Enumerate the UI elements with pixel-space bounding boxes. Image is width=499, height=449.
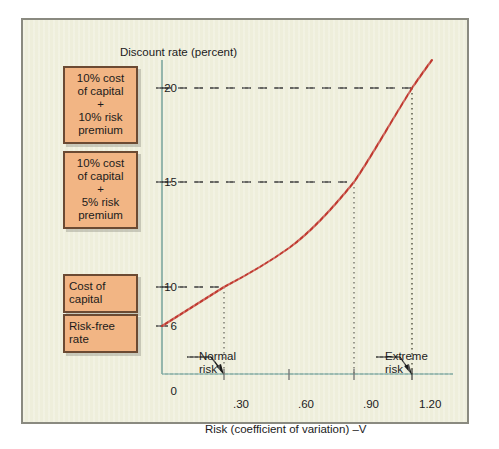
figure-root: 10% cost of capital + 10% risk premium 1… (0, 0, 499, 449)
callout-10pct-risk-premium: 10% cost of capital + 10% risk premium (63, 66, 138, 144)
callout-line: 10% risk (69, 111, 132, 124)
callout-line: premium (69, 209, 132, 222)
annotation-normal-risk: Normal risk (199, 350, 236, 375)
callout-line: 5% risk (69, 196, 132, 209)
callout-line: of capital (69, 170, 132, 183)
x-tick-label-090: .90 (363, 398, 379, 410)
callout-line: + (69, 98, 132, 111)
annotation-extreme-risk: Extreme risk (385, 350, 428, 375)
annotation-line: Normal (199, 350, 236, 363)
callout-cost-of-capital: Cost of capital (63, 274, 138, 313)
chart-panel: 10% cost of capital + 10% risk premium 1… (21, 18, 469, 424)
callout-line: + (69, 183, 132, 196)
reference-lines-horizontal (162, 88, 412, 287)
callout-line: premium (69, 124, 132, 137)
reference-lines-vertical (224, 88, 412, 374)
callout-line: Cost of (69, 280, 132, 293)
x-tick-label-120: 1.20 (419, 398, 441, 410)
risk-return-curve (162, 60, 432, 326)
callout-line: capital (69, 293, 132, 306)
callout-line: of capital (69, 85, 132, 98)
callout-5pct-risk-premium: 10% cost of capital + 5% risk premium (63, 151, 138, 229)
x-axis-title: Risk (coefficient of variation) –V (205, 423, 367, 436)
x-tick-label-030: .30 (233, 398, 249, 410)
y-tick-label-20: 20 (155, 82, 177, 94)
annotation-line: Extreme (385, 350, 428, 363)
callout-line: 10% cost (69, 157, 132, 170)
y-tick-label-15: 15 (155, 176, 177, 188)
y-tick-label-0: 0 (155, 385, 177, 397)
y-tick-label-6: 6 (155, 320, 177, 332)
callout-line: rate (69, 333, 132, 346)
callout-line: 10% cost (69, 72, 132, 85)
y-tick-label-10: 10 (155, 281, 177, 293)
annotation-line: risk (199, 363, 236, 376)
callout-line: Risk-free (69, 320, 132, 333)
annotation-line: risk (385, 363, 428, 376)
callout-risk-free-rate: Risk-free rate (63, 314, 138, 353)
x-tick-label-060: .60 (298, 398, 314, 410)
y-axis-title: Discount rate (percent) (120, 46, 237, 59)
